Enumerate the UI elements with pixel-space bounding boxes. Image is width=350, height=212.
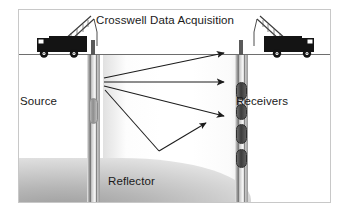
receivers-label: Receivers	[236, 95, 288, 107]
reflected-ray-down	[105, 90, 159, 151]
crane-truck-icon-source	[37, 16, 97, 58]
direct-ray-lower	[104, 86, 224, 116]
figure-canvas: Crosswell Data Acquisition Source Receiv…	[0, 0, 350, 212]
direct-ray-upper	[104, 53, 224, 78]
source-label: Source	[20, 95, 57, 107]
reflected-ray-up	[159, 123, 206, 151]
crane-truck-icon-receiver	[254, 16, 314, 58]
raypath-layer	[104, 53, 224, 151]
reflector-label: Reflector	[108, 175, 155, 187]
figure-title: Crosswell Data Acquisition	[96, 14, 234, 26]
